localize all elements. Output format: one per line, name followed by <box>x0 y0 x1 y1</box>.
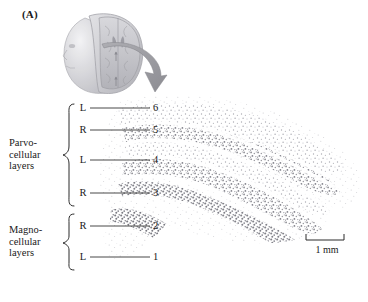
magnocellular-label-line-2: cellular <box>9 236 57 248</box>
eye-label-layer-2: R <box>76 221 90 232</box>
layer-number-6: 6 <box>153 103 165 114</box>
layer-number-2: 2 <box>153 221 165 232</box>
eye-label-layer-6: L <box>76 103 90 114</box>
parvocellular-label-line-1: Parvo- <box>9 137 57 149</box>
layer-number-5: 5 <box>153 125 165 136</box>
eye-label-layer-4: L <box>76 155 90 166</box>
magnocellular-label-line-1: Magno- <box>9 224 57 236</box>
figure-panel-a: (A) <box>0 0 368 302</box>
magnocellular-label-line-3: layers <box>9 247 57 259</box>
scale-bar <box>306 234 344 240</box>
magnocellular-layers-label: Magno- cellular layers <box>9 224 57 259</box>
eye-label-layer-3: R <box>76 188 90 199</box>
magnocellular-brace <box>63 214 74 270</box>
parvocellular-layers-label: Parvo- cellular layers <box>9 137 57 172</box>
layer-number-4: 4 <box>153 155 165 166</box>
eye-label-layer-5: R <box>76 125 90 136</box>
parvocellular-label-line-2: cellular <box>9 149 57 161</box>
scale-bar-caption: 1 mm <box>306 244 348 255</box>
eye-label-layer-1: L <box>76 252 90 263</box>
layer-number-1: 1 <box>153 252 165 263</box>
layer-number-3: 3 <box>153 188 165 199</box>
parvocellular-brace <box>63 104 74 206</box>
leader-lines <box>90 108 150 257</box>
parvocellular-label-line-3: layers <box>9 160 57 172</box>
